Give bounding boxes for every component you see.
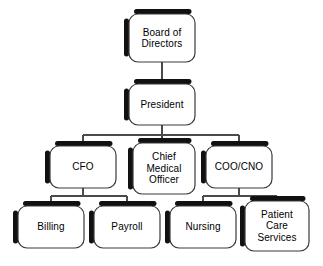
node-label-chief-medical-officer: Chief Medical Officer (146, 151, 181, 186)
node-label-payroll: Payroll (111, 221, 142, 233)
node-label-billing: Billing (37, 221, 64, 233)
node-label-coo-cno: COO/CNO (215, 161, 263, 173)
node-patient-care-services[interactable]: Patient Care Services (245, 201, 309, 251)
node-cfo[interactable]: CFO (50, 146, 116, 188)
node-label-patient-care-services: Patient Care Services (257, 209, 296, 244)
node-billing[interactable]: Billing (18, 206, 84, 248)
node-label-cfo: CFO (72, 161, 93, 173)
node-label-nursing: Nursing (185, 221, 220, 233)
node-president[interactable]: President (129, 84, 195, 125)
node-label-president: President (140, 99, 183, 111)
node-label-board-of-directors: Board of Directors (142, 27, 183, 50)
node-nursing[interactable]: Nursing (170, 206, 236, 248)
org-chart: Board of Directors President CFO Chief M… (0, 0, 323, 266)
node-board-of-directors[interactable]: Board of Directors (129, 14, 195, 62)
node-chief-medical-officer[interactable]: Chief Medical Officer (133, 143, 195, 194)
node-payroll[interactable]: Payroll (94, 206, 160, 248)
node-coo-cno[interactable]: COO/CNO (206, 146, 272, 188)
